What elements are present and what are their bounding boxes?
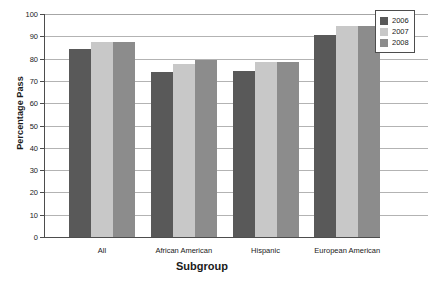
bar-group [314,14,380,237]
bar-group [69,14,135,237]
y-tick-label: 40 [30,143,38,152]
y-tick-mark [40,36,44,37]
bar [277,62,299,237]
y-tick-mark [40,103,44,104]
y-tick-mark [40,170,44,171]
legend-label: 2007 [392,27,409,37]
category-label: Hispanic [251,246,280,255]
y-tick-mark [40,148,44,149]
bar [336,26,358,237]
bar [255,62,277,237]
category-label: All [98,246,106,255]
bar [91,42,113,237]
y-tick-label: 30 [30,166,38,175]
category-label: African American [155,246,212,255]
y-tick-label: 20 [30,188,38,197]
y-tick-mark [40,126,44,127]
legend: 200620072008 [375,10,415,53]
y-tick-label: 50 [30,121,38,130]
y-tick-label: 60 [30,99,38,108]
y-tick-label: 80 [30,54,38,63]
category-label: European American [314,246,380,255]
y-tick-mark [40,215,44,216]
y-tick-label: 0 [34,233,38,242]
bars-layer [45,14,380,237]
legend-swatch [380,39,388,47]
bar [358,26,380,237]
bar [113,42,135,237]
y-axis-title: Percentage Pass [15,48,25,178]
legend-item: 2008 [380,37,409,48]
bar-chart: Percentage Pass 0102030405060708090100 A… [0,0,432,283]
y-tick-mark [40,14,44,15]
bar [69,49,91,237]
x-axis-title: Subgroup [22,260,382,272]
bar [314,35,336,237]
y-tick-label: 70 [30,76,38,85]
bar-group [233,14,299,237]
legend-item: 2007 [380,26,409,37]
y-tick-mark [40,237,44,238]
bar [173,64,195,237]
legend-item: 2006 [380,15,409,26]
y-tick-label: 90 [30,32,38,41]
y-tick-mark [40,59,44,60]
legend-label: 2006 [392,16,409,26]
legend-swatch [380,28,388,36]
plot-area: 0102030405060708090100 AllAfrican Americ… [44,14,380,237]
bar-group [151,14,217,237]
legend-swatch [380,17,388,25]
y-tick-label: 100 [25,10,38,19]
y-tick-mark [40,81,44,82]
legend-label: 2008 [392,38,409,48]
bar [233,71,255,237]
bar [195,60,217,237]
bar [151,72,173,237]
x-axis-line [44,237,380,238]
y-tick-mark [40,192,44,193]
y-tick-label: 10 [30,210,38,219]
